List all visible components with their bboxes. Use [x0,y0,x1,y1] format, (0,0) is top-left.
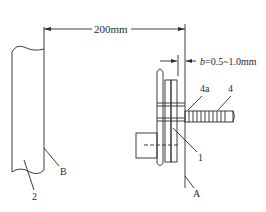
holder [157,69,163,166]
label-b: B [60,166,67,177]
part-1 [157,80,185,162]
leader-2 [24,160,34,190]
label-4a: 4a [200,83,210,94]
label-a: A [193,188,201,199]
label-b-gap: b=0.5~1.0mm [200,56,257,67]
label-b-range: =0.5~1.0mm [205,56,257,67]
plate-2 [12,27,44,174]
label-2: 2 [32,191,37,202]
label-200mm: 200mm [94,23,128,35]
leader-a [185,176,194,188]
part-4-tool [185,111,235,122]
label-4: 4 [228,83,233,94]
technical-diagram: 200mm b=0.5~1.0mm 4a 4 1 A B 2 [0,0,266,212]
side-block [136,133,180,158]
leader-b [44,148,59,166]
label-1: 1 [198,152,203,163]
leader-4 [218,96,231,110]
leader-4a [188,96,202,110]
dimension-b-gap [160,55,196,76]
